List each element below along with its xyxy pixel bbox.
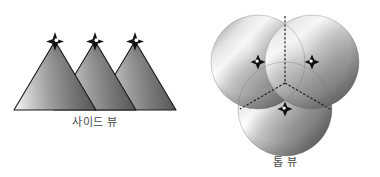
center-highlight-top-left	[255, 59, 258, 62]
side-view-illustration	[0, 0, 190, 177]
apex-highlight-2	[95, 38, 99, 42]
apex-highlight-3	[135, 38, 139, 42]
apex-highlight-1	[55, 38, 59, 42]
side-view-caption: 사이드 뷰	[0, 113, 190, 129]
apex-marker-2	[86, 32, 104, 51]
center-highlight-bottom	[282, 106, 285, 109]
four-point-star-icon	[86, 32, 104, 51]
top-view-panel: 톱 뷰	[190, 0, 380, 177]
center-highlight-top-right	[309, 59, 312, 62]
figure-container: 사이드 뷰	[0, 0, 380, 177]
top-view-caption: 톱 뷰	[190, 153, 380, 169]
cone-apex-markers	[46, 32, 144, 51]
side-view-panel: 사이드 뷰	[0, 0, 190, 177]
four-point-star-icon	[46, 32, 64, 51]
apex-marker-3	[126, 32, 144, 51]
top-view-illustration	[190, 0, 380, 177]
four-point-star-icon	[126, 32, 144, 51]
apex-marker-1	[46, 32, 64, 51]
